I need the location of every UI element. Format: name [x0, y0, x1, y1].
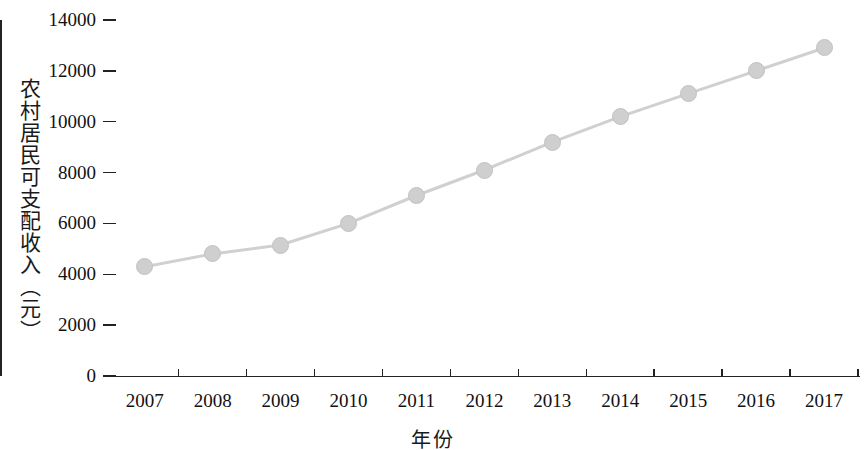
y-axis-tick-label: 6000 [24, 212, 96, 234]
y-axis-tick-label: 12000 [24, 60, 96, 82]
y-axis-tick [103, 274, 116, 276]
data-point-marker [476, 162, 493, 179]
series-line [0, 0, 866, 450]
x-axis-tick [518, 369, 520, 377]
y-axis-tick [103, 324, 116, 326]
x-axis-tick [721, 369, 723, 377]
y-axis-tick [103, 223, 116, 225]
x-axis-tick [450, 369, 452, 377]
y-axis-tick-label: 4000 [24, 263, 96, 285]
data-point-marker [136, 258, 153, 275]
chart-figure: 农村居民可支配收入（元） 020004000600080001000012000… [0, 0, 866, 450]
x-axis-tick [857, 369, 859, 377]
y-axis-tick [103, 375, 116, 377]
data-point-marker [340, 215, 357, 232]
data-point-marker [748, 62, 765, 79]
y-axis-tick [103, 121, 116, 123]
x-axis-tick [314, 369, 316, 377]
x-axis-tick-label: 2017 [784, 390, 864, 412]
y-axis-tick [103, 70, 116, 72]
data-point-marker [680, 85, 697, 102]
data-point-marker [408, 187, 425, 204]
y-axis-tick-label: 8000 [24, 162, 96, 184]
x-axis-tick [789, 369, 791, 377]
x-axis-tick [653, 369, 655, 377]
y-axis-tick-label: 14000 [24, 9, 96, 31]
x-axis-tick [178, 369, 180, 377]
data-point-marker [612, 108, 629, 125]
x-axis-tick [586, 369, 588, 377]
data-point-marker [272, 237, 289, 254]
y-axis-tick-label: 2000 [24, 314, 96, 336]
x-axis-line [110, 376, 860, 378]
y-axis-tick [103, 19, 116, 21]
data-point-marker [544, 134, 561, 151]
x-axis-tick [382, 369, 384, 377]
y-axis-tick-label: 10000 [24, 111, 96, 133]
y-axis-tick [103, 172, 116, 174]
data-point-marker [204, 245, 221, 262]
y-axis-line [0, 20, 2, 376]
y-axis-tick-label: 0 [24, 365, 96, 387]
x-axis-title: 年份 [0, 424, 866, 450]
data-point-marker [816, 39, 833, 56]
x-axis-tick [246, 369, 248, 377]
